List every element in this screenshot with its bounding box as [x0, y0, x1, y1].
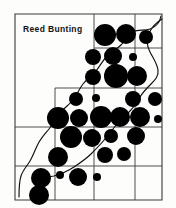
abundance-dot: [60, 126, 82, 148]
abundance-dot: [130, 107, 150, 127]
abundance-dot: [127, 66, 147, 86]
abundance-dot: [104, 129, 118, 143]
abundance-dot: [70, 109, 88, 127]
abundance-dot: [92, 94, 100, 102]
abundance-dot: [148, 92, 162, 106]
abundance-dot: [125, 91, 141, 107]
abundance-dot: [83, 129, 101, 147]
abundance-dot: [48, 147, 68, 167]
abundance-dot: [127, 127, 145, 145]
abundance-dot: [31, 168, 51, 188]
abundance-dot: [69, 92, 83, 106]
species-title: Reed Bunting: [23, 24, 82, 34]
abundance-dot: [90, 106, 112, 128]
abundance-dot: [139, 30, 153, 44]
abundance-dot: [104, 47, 122, 65]
abundance-dot: [93, 173, 101, 181]
abundance-dot: [117, 147, 131, 161]
abundance-dot: [116, 24, 136, 44]
abundance-dot: [56, 171, 64, 179]
abundance-dot: [97, 147, 113, 163]
abundance-dot: [154, 115, 162, 123]
abundance-dot: [69, 168, 87, 186]
abundance-dot: [29, 185, 49, 205]
distribution-map-figure: Reed Bunting: [0, 0, 176, 208]
abundance-dot: [129, 53, 137, 61]
abundance-dot: [47, 107, 69, 129]
abundance-dot: [85, 49, 101, 65]
abundance-dot: [104, 64, 128, 88]
abundance-dot: [110, 107, 130, 127]
abundance-dot: [85, 69, 101, 85]
abundance-dot: [94, 24, 116, 46]
